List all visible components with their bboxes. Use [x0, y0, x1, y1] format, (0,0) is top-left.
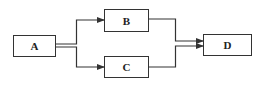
edge-a-to-b: [56, 20, 105, 44]
edge-c-to-d: [149, 46, 204, 67]
edge-a-to-c: [56, 47, 105, 67]
node-a-label: A: [13, 35, 56, 57]
node-c-label: C: [104, 56, 149, 78]
edge-b-to-d: [149, 19, 204, 41]
node-b-label: B: [104, 9, 149, 32]
node-d-label: D: [203, 34, 252, 56]
